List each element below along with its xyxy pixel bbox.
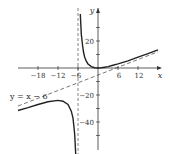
function-graph: −18 −12 −6 6 12 20 −20 −40 x y y = x − 6 — [0, 0, 170, 154]
curve-left-branch — [18, 100, 76, 154]
x-tick-label: 6 — [117, 72, 122, 80]
y-tick-label: −40 — [79, 119, 94, 127]
x-tick-label: −12 — [51, 72, 66, 80]
y-axis-label: y — [89, 6, 95, 15]
y-axis-arrow-icon — [96, 8, 100, 13]
x-tick-label: 12 — [135, 72, 144, 80]
x-axis-arrow-icon — [157, 66, 162, 70]
y-tick-label: −20 — [79, 92, 94, 100]
asymptote-label: y = x − 6 — [9, 92, 48, 101]
y-tick-label: 20 — [85, 38, 94, 46]
x-tick-label: −6 — [71, 72, 82, 80]
x-axis-label: x — [158, 71, 163, 80]
x-tick-label: −18 — [31, 72, 46, 80]
